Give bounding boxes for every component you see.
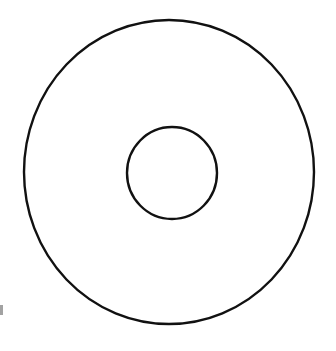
scan-edge-mark — [0, 305, 3, 315]
figure-background — [0, 0, 336, 351]
annulus-figure: Annulus Two concentric circles forming a… — [0, 0, 336, 351]
annulus-diagram-canvas — [0, 0, 336, 351]
